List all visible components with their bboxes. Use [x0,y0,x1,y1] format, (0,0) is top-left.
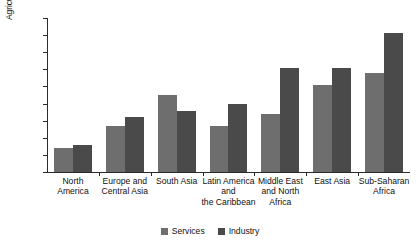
x-category-label: South Asia [147,176,207,186]
x-category-label-line: East Asia [302,176,362,186]
x-category-label-line: Sub-Saharan [354,176,414,186]
bar-industry [228,104,247,172]
bar-industry [280,68,299,172]
bar-services [261,114,280,172]
bar-group [47,14,99,172]
x-category-label-line: Central Asia [95,186,155,196]
x-category-label-line: Middle East [250,176,310,186]
bar-industry [384,33,403,172]
bar-services [210,126,229,172]
bar-services [365,73,384,172]
bar-services [54,148,73,172]
bar-services [313,85,332,172]
x-category-label: Europe andCentral Asia [95,176,155,197]
x-category-label: Middle Eastand NorthAfrica [250,176,310,207]
bar-industry [177,111,196,172]
x-category-label: Latin Americaandthe Caribbean [199,176,259,207]
x-category-label-line: South Asia [147,176,207,186]
y-tick-mark [43,172,47,173]
x-category-label: Sub-SaharanAfrica [354,176,414,197]
bar-services [158,95,177,172]
bar-services [106,126,125,172]
legend-item-services[interactable]: Services [161,226,205,236]
legend-label: Services [172,226,205,236]
bar-industry [73,145,92,172]
x-category-label: East Asia [302,176,362,186]
bar-group [254,14,306,172]
bar-group [203,14,255,172]
legend-label: Industry [229,226,260,236]
x-category-label-line: Africa [250,197,310,207]
x-category-label-line: Africa [354,186,414,196]
bar-group [306,14,358,172]
bar-group [358,14,410,172]
bar-group [99,14,151,172]
legend-swatch-icon [161,228,168,235]
x-category-label-line: the Caribbean [199,197,259,207]
bar-group [151,14,203,172]
agriculture-productivity-gap-chart: Agriculture productivity gap 0123456789 … [0,0,420,245]
x-category-label-line: Europe and [95,176,155,186]
y-axis-title: Agriculture productivity gap [4,0,17,20]
bar-industry [125,117,144,172]
y-axis-title-container: Agriculture productivity gap [0,0,16,175]
legend-item-industry[interactable]: Industry [218,226,260,236]
legend-swatch-icon [218,228,225,235]
x-category-label-line: and [199,186,259,196]
plot-area: 0123456789 [47,14,410,172]
x-category-label-line: Latin America [199,176,259,186]
x-axis-line [47,172,410,173]
bar-industry [332,68,351,172]
chart-legend: ServicesIndustry [0,226,420,236]
x-category-label-line: and North [250,186,310,196]
